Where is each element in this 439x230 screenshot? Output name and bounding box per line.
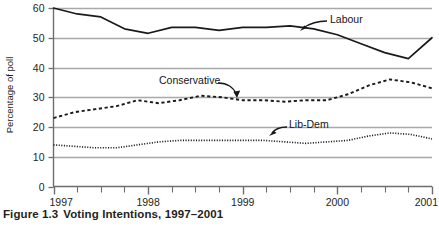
y-tick-label-20: 20	[33, 121, 45, 133]
y-axis-title: Percentage of poll	[4, 57, 15, 134]
conservative-label: Conservative	[159, 74, 220, 86]
figure-caption-text: Voting Intentions, 1997–2001	[63, 208, 223, 220]
y-tick-label-60: 60	[33, 2, 45, 14]
x-tick-label-2001: 2001	[415, 196, 439, 208]
y-tick-label-50: 50	[33, 32, 45, 44]
figure-container: 0102030405060 19971998199920002001 Perce…	[0, 0, 439, 230]
x-tick-label-1998: 1998	[136, 196, 160, 208]
lib-dem-label: Lib-Dem	[289, 118, 329, 130]
labour-label: Labour	[330, 13, 363, 25]
x-tick-label-2000: 2000	[326, 196, 350, 208]
x-tick-label-1999: 1999	[231, 196, 255, 208]
figure-number: Figure 1.3	[3, 208, 58, 220]
y-tick-label-40: 40	[33, 62, 45, 74]
y-tick-label-0: 0	[39, 181, 45, 193]
y-tick-label-30: 30	[33, 91, 45, 103]
y-tick-label-10: 10	[33, 151, 45, 163]
figure-caption: Figure 1.3Voting Intentions, 1997–2001	[3, 208, 436, 220]
voting-intentions-line-chart: 0102030405060 19971998199920002001 Perce…	[0, 0, 439, 230]
x-tick-label-1997: 1997	[50, 196, 74, 208]
